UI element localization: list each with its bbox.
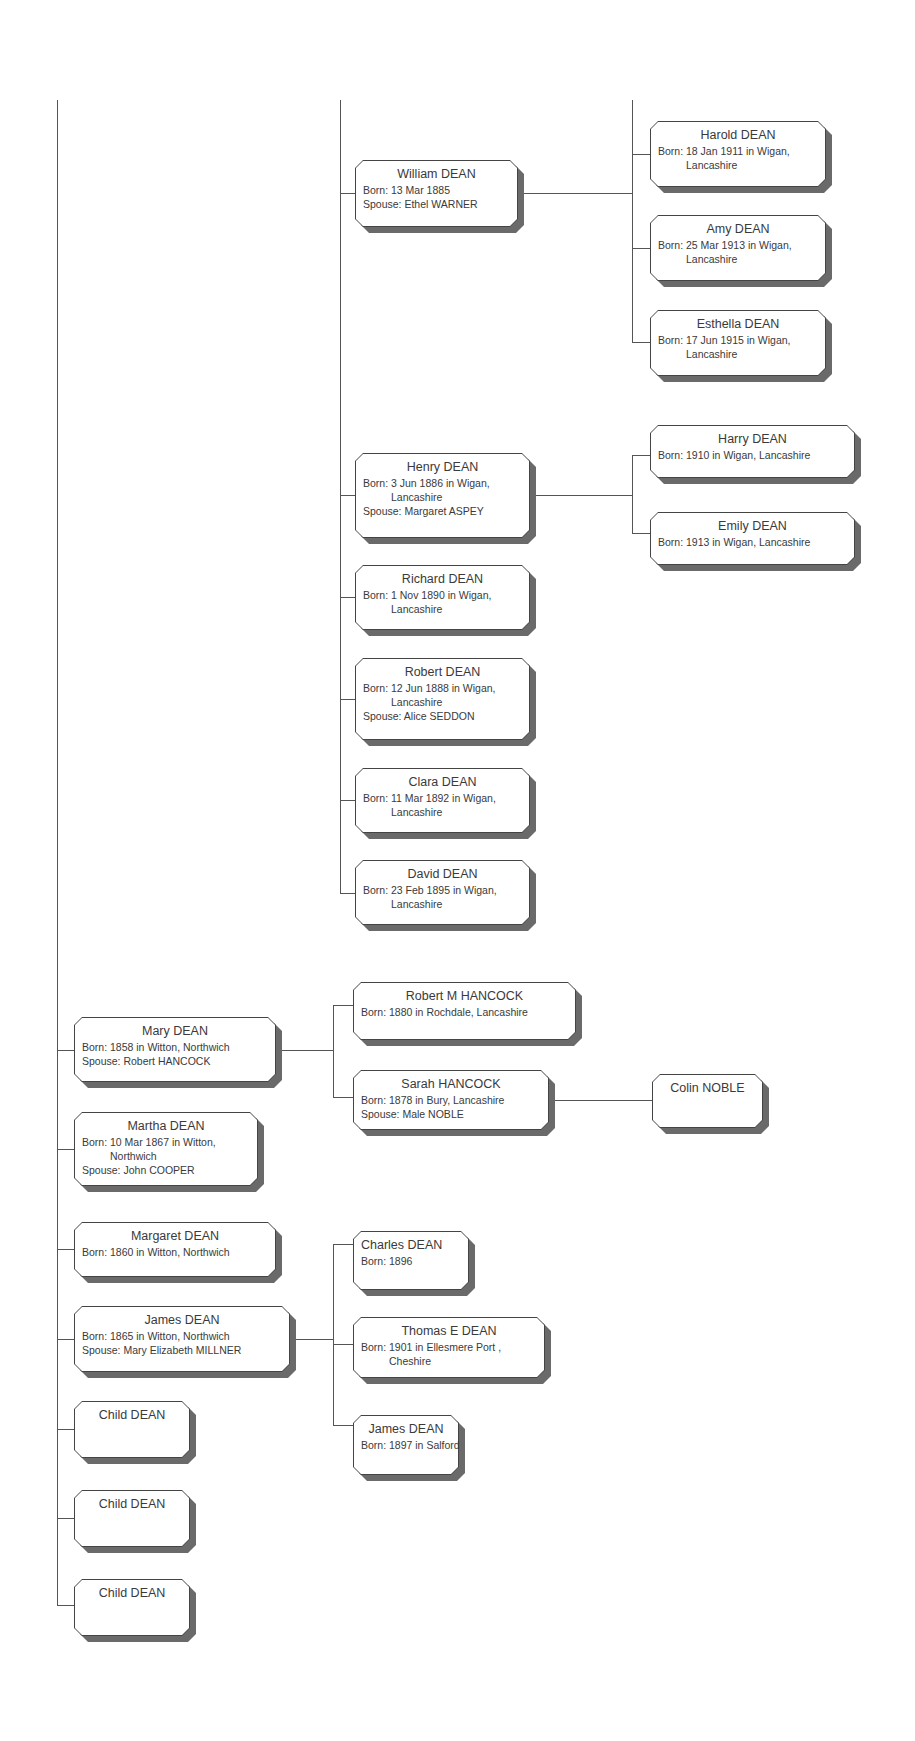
connector xyxy=(632,248,650,249)
connector xyxy=(632,533,650,534)
connector xyxy=(57,1605,74,1606)
birth-info: Born: 17 Jun 1915 in Wigan, xyxy=(658,333,818,347)
spouse-info: Spouse: Margaret ASPEY xyxy=(363,504,522,518)
connector xyxy=(296,1339,333,1340)
person-name: Clara DEAN xyxy=(363,774,522,791)
connector xyxy=(340,699,355,700)
birth-info: Born: 1880 in Rochdale, Lancashire xyxy=(361,1005,568,1019)
person-name: David DEAN xyxy=(363,866,522,883)
person-node-child-dean-3[interactable]: Child DEAN xyxy=(74,1579,190,1636)
birth-info: Born: 23 Feb 1895 in Wigan, xyxy=(363,883,522,897)
birth-info: Born: 1901 in Ellesmere Port , xyxy=(361,1340,537,1354)
connector xyxy=(632,455,633,533)
birth-info: Born: 1878 in Bury, Lancashire xyxy=(361,1093,541,1107)
birth-info: Born: 10 Mar 1867 in Witton, xyxy=(82,1135,250,1149)
person-node-amy-dean[interactable]: Amy DEAN Born: 25 Mar 1913 in Wigan, Lan… xyxy=(650,215,826,281)
birth-place-continued: Lancashire xyxy=(658,347,818,361)
person-name: Henry DEAN xyxy=(363,459,522,476)
person-name: Robert M HANCOCK xyxy=(361,988,568,1005)
person-name: Emily DEAN xyxy=(658,518,847,535)
birth-info: Born: 11 Mar 1892 in Wigan, xyxy=(363,791,522,805)
birth-info: Born: 1 Nov 1890 in Wigan, xyxy=(363,588,522,602)
connector xyxy=(333,1344,353,1345)
connector xyxy=(340,893,355,894)
spouse-info: Spouse: Robert HANCOCK xyxy=(82,1054,268,1068)
person-node-child-dean-1[interactable]: Child DEAN xyxy=(74,1401,190,1458)
person-node-harold-dean[interactable]: Harold DEAN Born: 18 Jan 1911 in Wigan, … xyxy=(650,121,826,187)
connector-trunk-col1 xyxy=(57,100,58,1605)
person-name: Harry DEAN xyxy=(658,431,847,448)
person-node-robert-m-hancock[interactable]: Robert M HANCOCK Born: 1880 in Rochdale,… xyxy=(353,982,576,1040)
person-name: William DEAN xyxy=(363,166,510,183)
person-name: Thomas E DEAN xyxy=(361,1323,537,1340)
connector xyxy=(555,1100,652,1101)
birth-info: Born: 1865 in Witton, Northwich xyxy=(82,1329,282,1343)
connector xyxy=(57,1249,74,1250)
person-name: James DEAN xyxy=(361,1421,451,1438)
person-name: Amy DEAN xyxy=(658,221,818,238)
person-node-james-dean[interactable]: James DEAN Born: 1865 in Witton, Northwi… xyxy=(74,1306,290,1372)
birth-info: Born: 3 Jun 1886 in Wigan, xyxy=(363,476,522,490)
spouse-info: Spouse: John COOPER xyxy=(82,1163,250,1177)
person-node-sarah-hancock[interactable]: Sarah HANCOCK Born: 1878 in Bury, Lancas… xyxy=(353,1070,549,1130)
person-name: Martha DEAN xyxy=(82,1118,250,1135)
person-node-colin-noble[interactable]: Colin NOBLE xyxy=(652,1074,763,1128)
connector xyxy=(57,1429,74,1430)
person-name: Esthella DEAN xyxy=(658,316,818,333)
person-name: Mary DEAN xyxy=(82,1023,268,1040)
person-node-richard-dean[interactable]: Richard DEAN Born: 1 Nov 1890 in Wigan, … xyxy=(355,565,530,630)
connector xyxy=(632,455,650,456)
birth-place-continued: Lancashire xyxy=(658,252,818,266)
birth-info: Born: 25 Mar 1913 in Wigan, xyxy=(658,238,818,252)
person-name: James DEAN xyxy=(82,1312,282,1329)
birth-info: Born: 18 Jan 1911 in Wigan, xyxy=(658,144,818,158)
person-name: Child DEAN xyxy=(82,1407,182,1424)
person-name: Robert DEAN xyxy=(363,664,522,681)
person-node-david-dean[interactable]: David DEAN Born: 23 Feb 1895 in Wigan, L… xyxy=(355,860,530,925)
person-node-james-dean-jr[interactable]: James DEAN Born: 1897 in Salford xyxy=(353,1415,459,1475)
person-node-charles-dean[interactable]: Charles DEAN Born: 1896 xyxy=(353,1231,469,1290)
birth-info: Born: 1896 xyxy=(361,1254,461,1268)
connector xyxy=(524,193,632,194)
birth-place-continued: Lancashire xyxy=(658,158,818,172)
person-node-william-dean[interactable]: William DEAN Born: 13 Mar 1885 Spouse: E… xyxy=(355,160,518,227)
birth-info: Born: 1860 in Witton, Northwich xyxy=(82,1245,268,1259)
person-node-emily-dean[interactable]: Emily DEAN Born: 1913 in Wigan, Lancashi… xyxy=(650,512,855,565)
connector xyxy=(282,1050,333,1051)
person-node-margaret-dean[interactable]: Margaret DEAN Born: 1860 in Witton, Nort… xyxy=(74,1222,276,1277)
birth-info: Born: 13 Mar 1885 xyxy=(363,183,510,197)
connector xyxy=(57,1050,74,1051)
birth-place-continued: Lancashire xyxy=(363,490,522,504)
person-name: Richard DEAN xyxy=(363,571,522,588)
person-name: Charles DEAN xyxy=(361,1237,461,1254)
birth-place-continued: Lancashire xyxy=(363,805,522,819)
person-node-clara-dean[interactable]: Clara DEAN Born: 11 Mar 1892 in Wigan, L… xyxy=(355,768,530,833)
person-name: Margaret DEAN xyxy=(82,1228,268,1245)
person-node-child-dean-2[interactable]: Child DEAN xyxy=(74,1490,190,1547)
connector-trunk-col2 xyxy=(340,100,341,893)
person-node-esthella-dean[interactable]: Esthella DEAN Born: 17 Jun 1915 in Wigan… xyxy=(650,310,826,376)
person-node-robert-dean[interactable]: Robert DEAN Born: 12 Jun 1888 in Wigan, … xyxy=(355,658,530,740)
birth-info: Born: 1913 in Wigan, Lancashire xyxy=(658,535,847,549)
connector xyxy=(57,1518,74,1519)
birth-place-continued: Northwich xyxy=(82,1149,250,1163)
person-node-harry-dean[interactable]: Harry DEAN Born: 1910 in Wigan, Lancashi… xyxy=(650,425,855,478)
connector xyxy=(333,1244,353,1245)
connector xyxy=(333,1244,334,1425)
connector xyxy=(333,1097,353,1098)
spouse-info: Spouse: Alice SEDDON xyxy=(363,709,522,723)
birth-info: Born: 1910 in Wigan, Lancashire xyxy=(658,448,847,462)
person-node-thomas-e-dean[interactable]: Thomas E DEAN Born: 1901 in Ellesmere Po… xyxy=(353,1317,545,1378)
person-node-mary-dean[interactable]: Mary DEAN Born: 1858 in Witton, Northwic… xyxy=(74,1017,276,1082)
connector xyxy=(333,1005,353,1006)
birth-place-continued: Lancashire xyxy=(363,897,522,911)
connector-trunk-col3 xyxy=(632,100,633,342)
spouse-info: Spouse: Mary Elizabeth MILLNER xyxy=(82,1343,282,1357)
person-node-henry-dean[interactable]: Henry DEAN Born: 3 Jun 1886 in Wigan, La… xyxy=(355,453,530,538)
birth-info: Born: 12 Jun 1888 in Wigan, xyxy=(363,681,522,695)
birth-place-continued: Lancashire xyxy=(363,695,522,709)
person-name: Sarah HANCOCK xyxy=(361,1076,541,1093)
person-node-martha-dean[interactable]: Martha DEAN Born: 10 Mar 1867 in Witton,… xyxy=(74,1112,258,1186)
connector xyxy=(632,342,650,343)
person-name: Child DEAN xyxy=(82,1585,182,1602)
